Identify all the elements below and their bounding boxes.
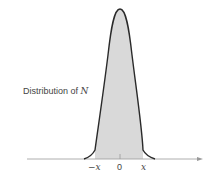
tick-pos-x: x bbox=[141, 162, 146, 172]
tick-neg-x: −x bbox=[88, 162, 101, 172]
axis-arrow-icon bbox=[197, 157, 203, 161]
tick-zero: 0 bbox=[117, 162, 122, 172]
distribution-figure: Distribution of N −x 0 x bbox=[0, 0, 213, 185]
label-prefix: Distribution of bbox=[23, 86, 81, 96]
label-variable: N bbox=[81, 86, 89, 96]
distribution-label: Distribution of N bbox=[23, 86, 88, 96]
